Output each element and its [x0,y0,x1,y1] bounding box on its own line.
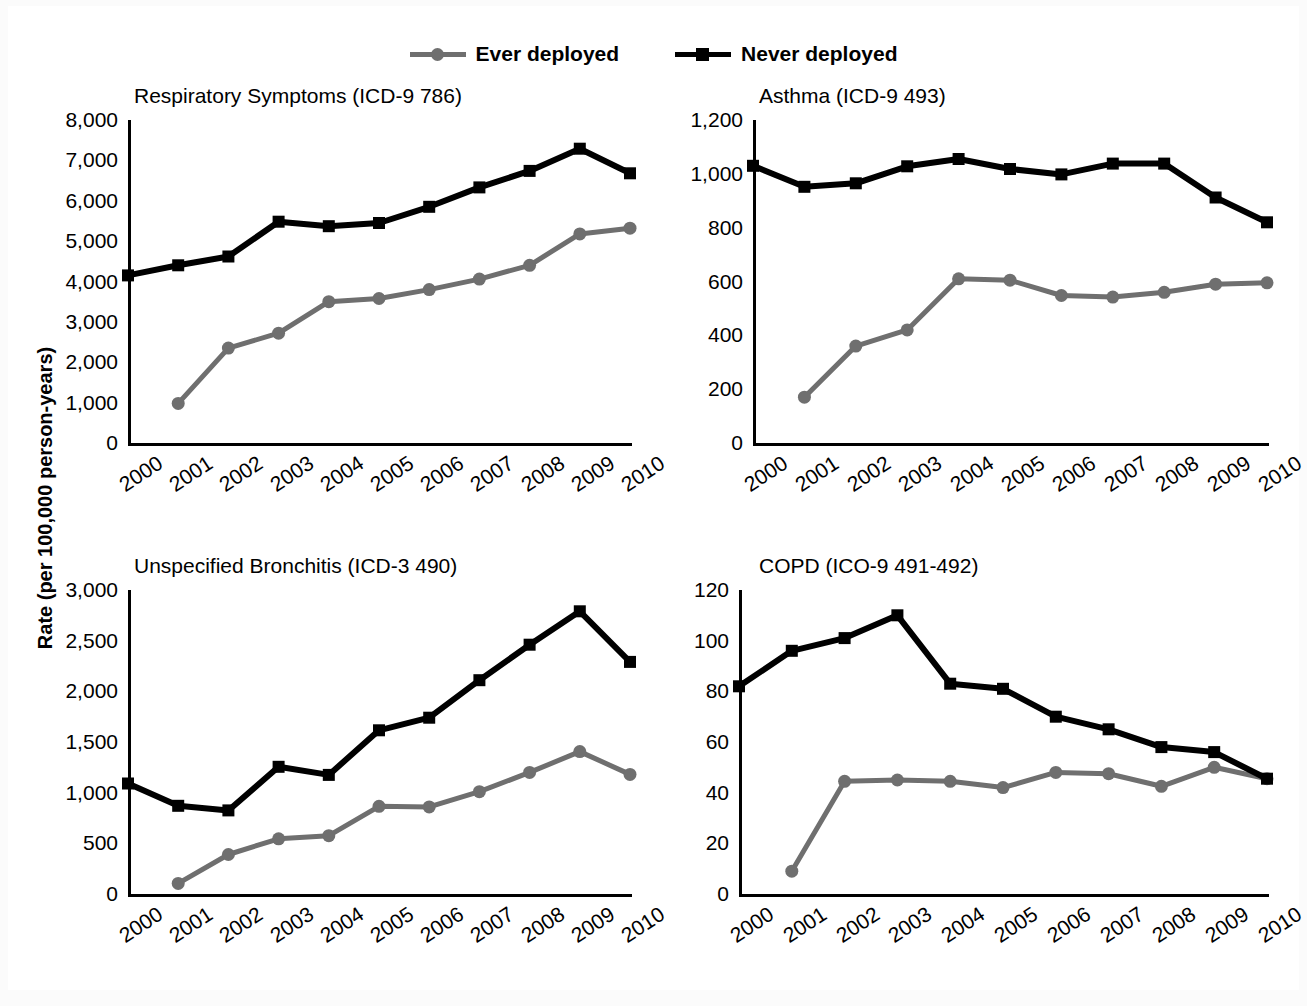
square-marker-icon [997,683,1009,695]
square-marker-icon [1208,746,1220,758]
circle-marker-icon [473,785,486,798]
legend-label-ever-deployed: Ever deployed [476,42,620,66]
square-marker-icon [1261,773,1273,785]
square-marker-icon [786,645,798,657]
series-layer [663,110,1293,539]
square-marker-icon [574,143,586,155]
square-marker-icon [1055,168,1067,180]
circle-marker-icon [798,391,811,404]
square-marker-icon [850,177,862,189]
square-marker-icon [944,678,956,690]
legend-swatch-never-deployed [675,44,731,64]
square-marker-icon [798,181,810,193]
circle-marker-icon [1208,761,1221,774]
circle-marker-icon [322,829,335,842]
square-marker-icon [1155,741,1167,753]
legend-label-never-deployed: Never deployed [741,42,897,66]
plot-area: 02004006008001,0001,20020002001200220032… [663,110,1293,539]
square-marker-icon [624,656,636,668]
circle-marker-icon [222,848,235,861]
figure-root: Ever deployed Never deployed Rate (per 1… [0,0,1307,1006]
square-marker-icon [891,609,903,621]
square-marker-icon [423,201,435,213]
chart-legend: Ever deployed Never deployed [8,34,1299,74]
series-layer [38,580,648,990]
circle-marker-icon [272,327,285,340]
circle-marker-icon [1055,289,1068,302]
circle-marker-icon [573,745,586,758]
square-marker-icon [423,712,435,724]
circle-marker-icon [1209,278,1222,291]
square-marker-icon [1158,158,1170,170]
series-line [128,149,630,276]
panel-title: Respiratory Symptoms (ICD-9 786) [134,84,462,108]
square-marker-icon [1261,216,1273,228]
square-marker-icon [839,632,851,644]
panel-copd: COPD (ICO-9 491-492)02040608010012020002… [663,554,1293,990]
circle-marker-icon [1106,291,1119,304]
circle-marker-icon [838,775,851,788]
circle-marker-icon [473,273,486,286]
circle-marker-icon [272,832,285,845]
square-marker-icon [122,269,134,281]
square-marker-icon [373,724,385,736]
square-marker-icon [733,680,745,692]
circle-marker-icon [373,292,386,305]
circle-marker-icon [1158,286,1171,299]
plot-area: 01,0002,0003,0004,0005,0006,0007,0008,00… [38,110,648,539]
circle-marker-icon [431,48,444,61]
square-marker-icon [1107,158,1119,170]
square-marker-icon [373,217,385,229]
square-marker-icon [323,769,335,781]
circle-marker-icon [952,272,965,285]
circle-marker-icon [523,766,536,779]
square-marker-icon [524,165,536,177]
panel-asthma: Asthma (ICD-9 493)02004006008001,0001,20… [663,84,1293,539]
series-line [739,615,1267,778]
series-line [178,228,630,403]
circle-marker-icon [1155,780,1168,793]
circle-marker-icon [523,259,536,272]
circle-marker-icon [1261,276,1274,289]
square-marker-icon [473,674,485,686]
square-marker-icon [273,761,285,773]
square-marker-icon [323,220,335,232]
panel-title: Asthma (ICD-9 493) [759,84,946,108]
series-never-deployed [747,153,1273,228]
legend-item-ever-deployed: Ever deployed [410,42,620,66]
figure-canvas: Ever deployed Never deployed Rate (per 1… [8,6,1299,990]
circle-marker-icon [849,340,862,353]
series-never-deployed [122,143,636,282]
square-marker-icon [747,160,759,172]
series-ever-deployed [785,761,1273,878]
circle-marker-icon [785,865,798,878]
circle-marker-icon [624,222,637,235]
square-marker-icon [222,804,234,816]
square-marker-icon [1004,163,1016,175]
series-line [804,279,1267,397]
panel-title: Unspecified Bronchitis (ICD-3 490) [134,554,457,578]
square-marker-icon [172,259,184,271]
circle-marker-icon [1049,766,1062,779]
circle-marker-icon [573,227,586,240]
circle-marker-icon [423,283,436,296]
series-line [178,752,630,884]
circle-marker-icon [172,877,185,890]
series-layer [38,110,648,539]
square-marker-icon [624,167,636,179]
square-marker-icon [273,216,285,228]
square-marker-icon [524,639,536,651]
square-marker-icon [172,800,184,812]
square-marker-icon [1050,711,1062,723]
circle-marker-icon [222,342,235,355]
circle-marker-icon [1102,767,1115,780]
series-ever-deployed [172,745,637,890]
series-ever-deployed [798,272,1274,403]
plot-area: 0204060801001202000200120022003200420052… [663,580,1293,990]
square-marker-icon [696,48,709,61]
square-marker-icon [1210,192,1222,204]
square-marker-icon [953,153,965,165]
panel-title: COPD (ICO-9 491-492) [759,554,978,578]
circle-marker-icon [997,781,1010,794]
square-marker-icon [122,778,134,790]
